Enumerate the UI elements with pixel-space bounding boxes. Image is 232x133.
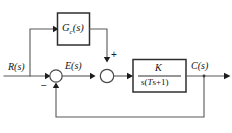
arrowhead-into-feedforward-summer-left: [90, 73, 96, 79]
feedforward-summing-junction: [100, 69, 113, 82]
compensator-label-base: G: [62, 22, 70, 33]
wire-feedforward-takeoff: [30, 29, 53, 76]
error-summer-minus-sign: −: [41, 81, 47, 91]
control-system-block-diagram: R(s) E(s) C(s) Gc(s) K s(Ts+1) + −: [0, 0, 232, 133]
error-summing-junction: [50, 70, 62, 82]
label-output-signal: C(s): [191, 61, 208, 71]
plant-denominator: s(Ts+1): [141, 78, 169, 87]
wire-compensator-output: [90, 29, 108, 57]
label-input-signal: R(s): [8, 62, 25, 72]
feedback-takeoff-node: [203, 75, 206, 78]
compensator-label: Gc(s): [62, 23, 84, 36]
feedforward-summer-plus-sign: +: [111, 50, 117, 60]
plant-numerator: K: [155, 63, 162, 73]
arrowhead-output: [224, 73, 231, 79]
arrowhead-into-feedforward-summer: [104, 57, 110, 63]
arrowhead-feedback-into-summer: [53, 82, 59, 88]
label-error-signal: E(s): [65, 61, 82, 71]
compensator-label-argument: (s): [73, 22, 84, 33]
plant-denominator-suffix: s+1): [153, 77, 169, 87]
